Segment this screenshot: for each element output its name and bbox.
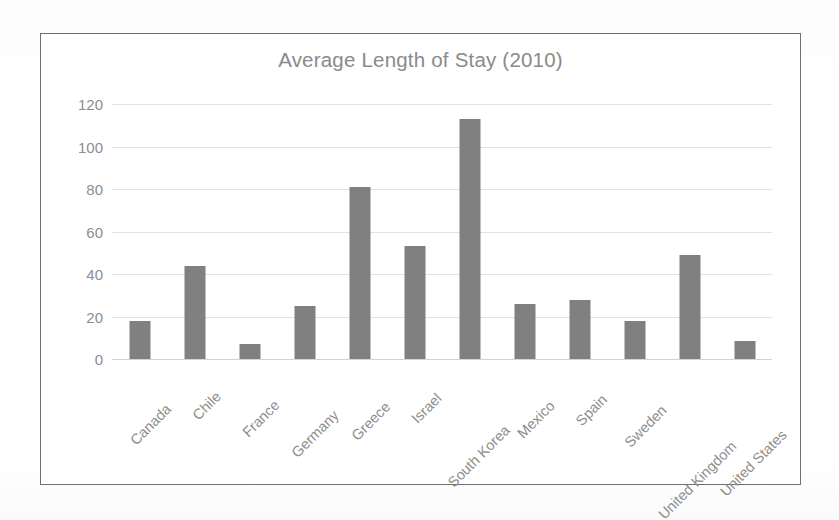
bar[interactable] — [349, 187, 370, 359]
x-axis-category-label: France — [239, 397, 282, 440]
bar-slot — [662, 104, 717, 359]
bar[interactable] — [184, 266, 205, 360]
y-axis-tick-label: 120 — [78, 96, 103, 113]
x-axis-category-label: Germany — [288, 407, 341, 460]
bar-slot — [552, 104, 607, 359]
bar-slot — [167, 104, 222, 359]
bar[interactable] — [404, 246, 425, 359]
x-axis-category-label: Canada — [126, 401, 173, 448]
x-axis-category-label: Chile — [189, 388, 224, 423]
x-axis-category-label: Mexico — [513, 397, 557, 441]
bar[interactable] — [679, 255, 700, 359]
y-axis-tick-label: 40 — [86, 266, 103, 283]
y-axis-tick-label: 60 — [86, 223, 103, 240]
x-axis-category-label: Greece — [348, 399, 393, 444]
chart-title: Average Length of Stay (2010) — [41, 48, 800, 72]
bar-slot — [717, 104, 772, 359]
y-axis-tick-label: 20 — [86, 308, 103, 325]
chart-frame: Average Length of Stay (2010) 0204060801… — [40, 33, 801, 485]
y-axis-tick-label: 80 — [86, 181, 103, 198]
bar[interactable] — [734, 341, 755, 359]
plot-area: 020406080100120 — [112, 104, 772, 359]
bar-slot — [277, 104, 332, 359]
bar[interactable] — [294, 306, 315, 359]
x-axis-category-label: Sweden — [621, 402, 669, 450]
bar-slot — [332, 104, 387, 359]
bar[interactable] — [129, 321, 150, 359]
y-axis-tick-label: 0 — [95, 351, 103, 368]
bar-slot — [607, 104, 662, 359]
x-axis-category-labels: CanadaChileFranceGermanyGreeceIsraelSout… — [112, 359, 772, 479]
bar[interactable] — [459, 119, 480, 359]
bar-series — [112, 104, 772, 359]
bar-slot — [112, 104, 167, 359]
bar[interactable] — [569, 300, 590, 360]
x-axis-category-label: Israel — [408, 390, 444, 426]
bar[interactable] — [514, 304, 535, 359]
bar-slot — [222, 104, 277, 359]
bar[interactable] — [624, 321, 645, 359]
bar-slot — [442, 104, 497, 359]
bar-slot — [497, 104, 552, 359]
bar-slot — [387, 104, 442, 359]
y-axis-tick-label: 100 — [78, 138, 103, 155]
x-axis-category-label: Spain — [572, 391, 610, 429]
x-axis-category-label: South Korea — [444, 422, 512, 490]
bar[interactable] — [239, 344, 260, 359]
